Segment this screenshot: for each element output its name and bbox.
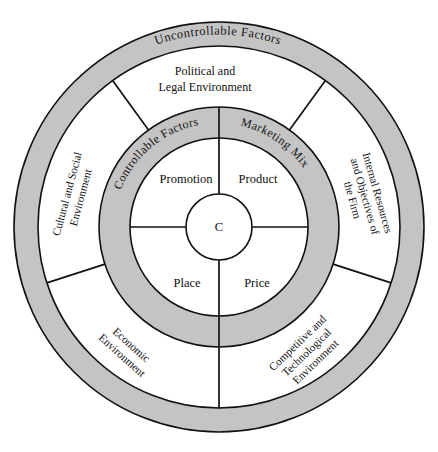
label-price: Price xyxy=(244,276,270,290)
label-promotion: Promotion xyxy=(160,172,214,186)
marketing-environment-diagram: Uncontrollable Factors Controllable Fact… xyxy=(0,0,438,452)
label-place: Place xyxy=(173,276,201,290)
wheel-graphic: Uncontrollable Factors Controllable Fact… xyxy=(0,0,438,452)
label-consumer-core: C xyxy=(215,220,223,234)
label-political-legal-line-1: Political and xyxy=(175,64,235,78)
label-political-legal-line-2: Legal Environment xyxy=(159,80,253,94)
label-product: Product xyxy=(239,172,278,186)
